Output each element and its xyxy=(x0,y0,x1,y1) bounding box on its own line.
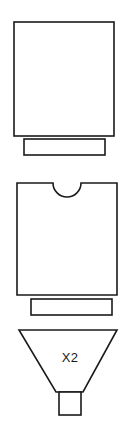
part-1-foot-rectangle xyxy=(24,139,105,155)
part-notched-block-with-base xyxy=(17,183,117,315)
diagram-canvas: X2 xyxy=(0,0,134,433)
technical-line-drawing: X2 xyxy=(0,0,134,433)
part-3-label: X2 xyxy=(62,350,78,365)
part-3-spout-rectangle xyxy=(59,392,81,415)
part-2-foot-rectangle xyxy=(31,299,112,315)
part-plain-block-with-base xyxy=(14,22,114,155)
part-1-body-rectangle xyxy=(14,22,114,136)
part-funnel-hopper-with-spout: X2 xyxy=(19,330,117,415)
part-2-body-with-notch xyxy=(17,183,117,295)
